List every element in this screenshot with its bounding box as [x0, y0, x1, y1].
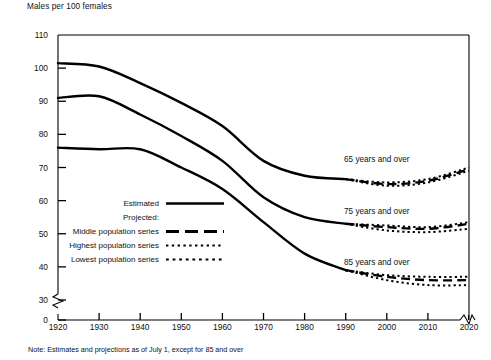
- x-axis-tick-label: 1990: [326, 322, 366, 332]
- x-axis-tick-label: 1950: [161, 322, 201, 332]
- legend-label-estimated: Estimated: [123, 199, 159, 208]
- legend-label-projected: Projected:: [123, 213, 159, 222]
- x-axis-tick-label: 2020: [449, 322, 489, 332]
- series-label-65-and-over: 65 years and over: [344, 155, 410, 164]
- chart-plot-area: [0, 0, 491, 360]
- legend-row-middle-series: Middle population series: [40, 224, 226, 238]
- legend-swatch-lowest-dotted: [164, 255, 226, 264]
- series-label-75-and-over: 75 years and over: [344, 207, 410, 216]
- legend-label-lowest-series: Lowest population series: [71, 255, 159, 264]
- y-axis-tick-label: 70: [26, 163, 48, 173]
- legend-swatch-highest-dotted: [164, 241, 226, 250]
- y-axis-tick-label: 100: [26, 63, 48, 73]
- chart-series-line: [58, 63, 346, 179]
- x-axis-tick-label: 1920: [38, 322, 78, 332]
- chart-note: Note: Estimates and projections as of Ju…: [28, 345, 243, 354]
- legend-row-highest-series: Highest population series: [40, 238, 226, 252]
- x-axis-tick-label: 1980: [285, 322, 325, 332]
- y-axis-tick-label: 30: [26, 295, 48, 305]
- chart-series-line: [346, 169, 469, 184]
- legend-row-lowest-series: Lowest population series: [40, 252, 226, 266]
- legend-swatch-estimated-solid: [164, 199, 226, 208]
- x-axis-tick-label: 1930: [79, 322, 119, 332]
- x-axis-tick-label: 2010: [408, 322, 448, 332]
- y-axis-tick-label: 110: [26, 30, 48, 40]
- legend-row-estimated: Estimated: [40, 196, 226, 210]
- x-axis-tick-label: 1970: [244, 322, 284, 332]
- y-axis-tick-label: 80: [26, 129, 48, 139]
- legend-row-projected-heading: Projected:: [40, 210, 226, 224]
- chart-series-line: [346, 270, 469, 280]
- y-axis-tick-label: 90: [26, 96, 48, 106]
- chart-legend: Estimated Projected: Middle population s…: [40, 196, 226, 266]
- chart-figure: Males per 100 females 030405060708090100…: [0, 0, 491, 360]
- legend-label-highest-series: Highest population series: [69, 241, 159, 250]
- legend-swatch-middle-dashed: [164, 227, 226, 236]
- x-axis-tick-label: 1940: [120, 322, 160, 332]
- series-label-85-and-over: 85 years and over: [344, 258, 410, 267]
- x-axis-tick-label: 1960: [202, 322, 242, 332]
- y-axis-tick-labels: 030405060708090100110: [26, 0, 48, 360]
- x-axis-tick-label: 2000: [367, 322, 407, 332]
- legend-label-middle-series: Middle population series: [73, 227, 159, 236]
